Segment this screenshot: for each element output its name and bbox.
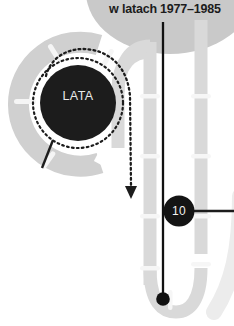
infographic-canvas: w latach 1977–1985 LATA 10	[0, 0, 234, 326]
black-pointer-end-dot	[156, 292, 170, 306]
hub-circle	[40, 65, 116, 141]
marker-badge-label: 10	[163, 204, 195, 218]
hub-label: LATA	[42, 89, 114, 103]
header-title: w latach 1977–1985	[96, 0, 234, 18]
illustration-layer	[0, 0, 234, 326]
right-edge-arc	[214, 196, 234, 312]
dotted-flow-arrowhead	[125, 186, 137, 199]
bottom-u-curve	[150, 268, 201, 312]
